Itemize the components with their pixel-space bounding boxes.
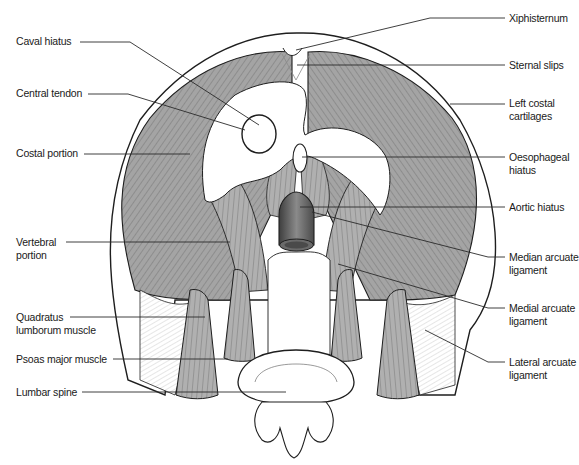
caval-hiatus (242, 115, 276, 153)
oesophageal-hiatus (293, 144, 307, 172)
label-median-arcuate-ligament-line1: Median arcuate (509, 251, 579, 264)
label-quadratus-lumborum-line1: Quadratus (16, 311, 96, 324)
label-lumbar-spine: Lumbar spine (16, 386, 77, 399)
label-median-arcuate-ligament: Median arcuate ligament (509, 251, 579, 277)
label-medial-arcuate-ligament: Medial arcuate ligament (509, 302, 575, 328)
label-aortic-hiatus: Aortic hiatus (509, 201, 564, 214)
label-sternal-slips: Sternal slips (509, 59, 564, 72)
label-psoas-major: Psoas major muscle (16, 353, 107, 366)
aorta-lumen-inner (285, 241, 309, 248)
label-xiphisternum: Xiphisternum (509, 12, 568, 25)
label-medial-arcuate-ligament-line1: Medial arcuate (509, 302, 575, 315)
label-vertebral-portion-line2: portion (16, 249, 56, 262)
label-left-costal-cartilages-line1: Left costal (509, 97, 555, 110)
label-lateral-arcuate-ligament-line1: Lateral arcuate (509, 356, 576, 369)
label-lateral-arcuate-ligament-line2: ligament (509, 369, 576, 382)
label-quadratus-lumborum: Quadratus lumborum muscle (16, 311, 96, 337)
label-vertebral-portion: Vertebral portion (16, 236, 56, 262)
lumbar-vertebral-body (238, 350, 354, 404)
label-costal-portion: Costal portion (16, 147, 78, 160)
label-left-costal-cartilages: Left costal cartilages (509, 97, 555, 123)
label-median-arcuate-ligament-line2: ligament (509, 264, 579, 277)
label-left-costal-cartilages-line2: cartilages (509, 110, 555, 123)
label-caval-hiatus: Caval hiatus (16, 35, 71, 48)
label-central-tendon: Central tendon (16, 87, 82, 100)
label-medial-arcuate-ligament-line2: ligament (509, 315, 575, 328)
vertebral-processes (255, 402, 333, 458)
label-oesophageal-hiatus-line1: Oesophageal (509, 151, 569, 164)
label-lateral-arcuate-ligament: Lateral arcuate ligament (509, 356, 576, 382)
label-oesophageal-hiatus: Oesophageal hiatus (509, 151, 569, 177)
label-oesophageal-hiatus-line2: hiatus (509, 164, 569, 177)
label-vertebral-portion-line1: Vertebral (16, 236, 56, 249)
aorta (279, 192, 314, 245)
vertebral-column (268, 252, 330, 355)
label-quadratus-lumborum-line2: lumborum muscle (16, 324, 96, 337)
